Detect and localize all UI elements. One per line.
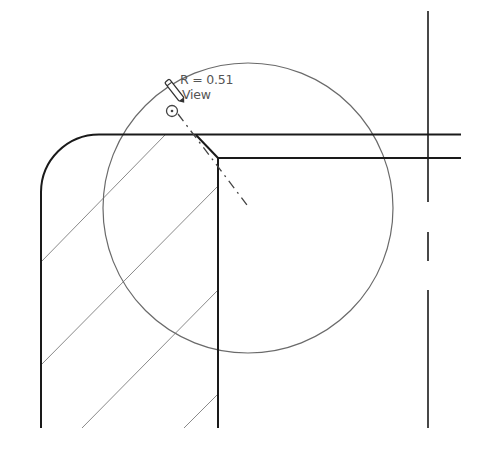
cad-drawing bbox=[0, 0, 493, 467]
detail-circle[interactable] bbox=[103, 63, 393, 353]
part-outline bbox=[41, 135, 461, 429]
inner-profile[interactable] bbox=[218, 158, 461, 428]
section-hatching bbox=[41, 135, 218, 428]
hatch-line bbox=[184, 394, 218, 428]
target-icon[interactable] bbox=[167, 106, 178, 117]
hatch-line bbox=[82, 290, 218, 428]
outer-profile[interactable] bbox=[41, 135, 461, 429]
cad-drawing-canvas: R = 0.51 View bbox=[0, 0, 493, 467]
radius-dimension-label[interactable]: R = 0.51 bbox=[180, 73, 233, 87]
view-label[interactable]: View bbox=[182, 88, 211, 102]
hatch-line bbox=[41, 186, 218, 365]
chamfer-edge[interactable] bbox=[196, 135, 218, 158]
